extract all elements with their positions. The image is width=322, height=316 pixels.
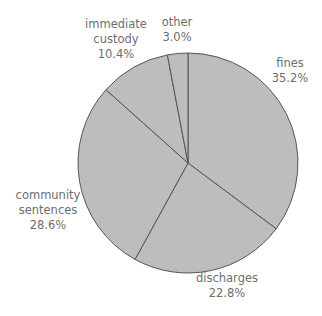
label-community-line2: sentences [16, 203, 81, 218]
label-other-pct: 3.0% [162, 30, 193, 45]
label-custody-line2: custody [85, 32, 147, 47]
label-discharges-name: discharges [196, 271, 258, 286]
label-custody-pct: 10.4% [85, 47, 147, 62]
label-other-name: other [162, 15, 193, 30]
label-fines-pct: 35.2% [272, 71, 309, 86]
label-discharges-pct: 22.8% [196, 286, 258, 301]
label-discharges: discharges 22.8% [196, 271, 258, 301]
label-custody-line1: immediate [85, 17, 147, 32]
label-community-sentences: community sentences 28.6% [16, 188, 81, 233]
label-community-pct: 28.6% [16, 218, 81, 233]
label-fines-name: fines [272, 56, 309, 71]
label-community-line1: community [16, 188, 81, 203]
label-other: other 3.0% [162, 15, 193, 45]
label-immediate-custody: immediate custody 10.4% [85, 17, 147, 62]
pie-chart [0, 0, 322, 316]
label-fines: fines 35.2% [272, 56, 309, 86]
